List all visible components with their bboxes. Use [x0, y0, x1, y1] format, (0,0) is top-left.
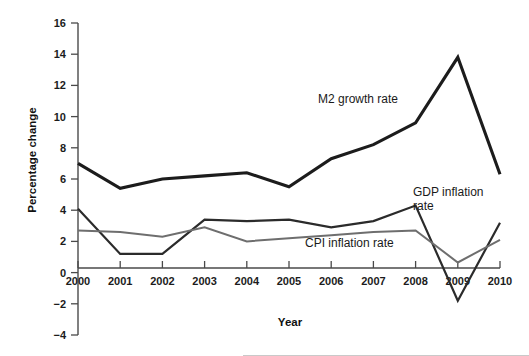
series-line-m2-growth-rate [78, 57, 500, 188]
x-axis-tick-label: 2000 [66, 275, 90, 287]
y-axis-title: Percentage change [26, 107, 38, 212]
y-axis-tick-label: −2 [53, 298, 66, 310]
y-axis-group: 1614121086420−2−4 [53, 17, 78, 341]
x-axis-tick-label: 2005 [277, 275, 301, 287]
y-axis-tick-label: 2 [60, 235, 66, 247]
y-axis-tick-label: 10 [54, 111, 66, 123]
annotation-cpi-inflation-rate: CPI inflation rate [305, 236, 394, 250]
x-axis-tick-label: 2003 [192, 275, 216, 287]
y-axis-tick-labels: 1614121086420−2−4 [53, 17, 66, 341]
x-axis-tick-label: 2001 [108, 275, 132, 287]
x-axis-tick-label: 2008 [403, 275, 427, 287]
y-axis-tick-label: 16 [54, 17, 66, 29]
chart-figure: 1614121086420−2−4 2000200120022003200420… [0, 0, 529, 356]
x-axis-tick-label: 2006 [319, 275, 343, 287]
annotation-gdp-inflation-rate-line2: rate [413, 199, 434, 213]
x-axis-tick-label: 2002 [150, 275, 174, 287]
x-axis-tick-label: 2007 [361, 275, 385, 287]
y-axis-tick-label: 14 [54, 48, 67, 60]
x-axis-tick-label: 2010 [488, 275, 512, 287]
x-axis-title: Year [278, 316, 303, 328]
y-axis-tick-label: 6 [60, 173, 66, 185]
annotation-gdp-inflation-rate-line1: GDP inflation [413, 185, 483, 199]
x-axis-ticks [78, 261, 500, 268]
y-axis-tick-label: −4 [53, 329, 66, 341]
y-axis-tick-label: 8 [60, 142, 66, 154]
x-axis-tick-labels: 2000200120022003200420052006200720082009… [66, 275, 512, 287]
annotation-m2-growth-rate: M2 growth rate [318, 92, 398, 106]
y-axis-ticks [71, 23, 78, 335]
series-line-cpi-inflation-rate [78, 227, 500, 262]
line-chart: 1614121086420−2−4 2000200120022003200420… [0, 0, 529, 356]
y-axis-tick-label: 4 [60, 204, 67, 216]
x-axis-tick-label: 2004 [235, 275, 260, 287]
y-axis-tick-label: 12 [54, 79, 66, 91]
